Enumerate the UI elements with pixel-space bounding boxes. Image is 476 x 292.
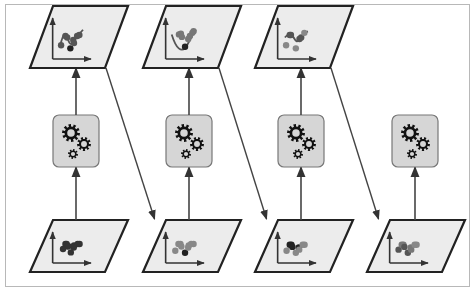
- data-point: [288, 32, 294, 38]
- model-2: [166, 115, 212, 167]
- gear-hole: [194, 141, 200, 147]
- data-point: [289, 244, 295, 250]
- data-point: [401, 244, 407, 250]
- data-point: [58, 42, 64, 48]
- data-point: [64, 34, 70, 40]
- data-point: [182, 44, 188, 50]
- prediction-plot-1: [30, 6, 128, 68]
- arrow-to-next-stage: [331, 68, 379, 219]
- data-point: [179, 34, 185, 40]
- data-point: [76, 32, 82, 38]
- gear-hole: [67, 129, 75, 137]
- gear-hole: [406, 129, 414, 137]
- gear-hole: [296, 152, 300, 156]
- data-point: [178, 243, 184, 249]
- data-point: [283, 248, 289, 254]
- gear-hole: [306, 141, 312, 147]
- model-box: [166, 115, 212, 167]
- prediction-plot-2: [143, 6, 241, 68]
- gear-hole: [71, 152, 75, 156]
- data-point: [301, 242, 307, 248]
- data-point: [65, 243, 71, 249]
- data-point: [301, 30, 307, 36]
- data-point: [293, 45, 299, 51]
- prediction-plot-3: [255, 6, 353, 68]
- data-point: [283, 42, 289, 48]
- input-dataset-4: [367, 220, 465, 272]
- input-dataset-1: [30, 220, 128, 272]
- model-4: [392, 115, 438, 167]
- gear-icon: [181, 149, 191, 159]
- data-point: [67, 45, 73, 51]
- gear-hole: [180, 129, 188, 137]
- data-point: [413, 242, 419, 248]
- arrow-to-next-stage: [219, 68, 267, 219]
- gear-hole: [292, 129, 300, 137]
- model-1: [53, 115, 99, 167]
- model-box: [53, 115, 99, 167]
- arrow-to-next-stage: [106, 68, 155, 219]
- model-box: [278, 115, 324, 167]
- gear-hole: [184, 152, 188, 156]
- data-point: [190, 28, 196, 34]
- data-point: [190, 241, 196, 247]
- model-box: [392, 115, 438, 167]
- boosting-diagram: [0, 0, 476, 292]
- input-dataset-3: [255, 220, 353, 272]
- model-3: [278, 115, 324, 167]
- input-dataset-2: [143, 220, 241, 272]
- gear-hole: [81, 141, 87, 147]
- data-point: [76, 241, 82, 247]
- data-point: [71, 40, 77, 46]
- gear-hole: [420, 141, 426, 147]
- data-point: [172, 248, 178, 254]
- gear-hole: [410, 152, 414, 156]
